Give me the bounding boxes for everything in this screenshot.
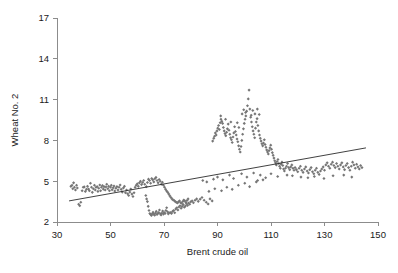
data-point <box>272 157 275 160</box>
data-point <box>343 168 346 171</box>
data-point <box>257 129 260 132</box>
data-point <box>313 175 316 178</box>
data-point <box>79 201 82 204</box>
data-point <box>264 176 267 179</box>
data-point <box>261 178 264 181</box>
data-point <box>228 174 231 177</box>
data-point <box>238 148 241 151</box>
y-tick-group: 258111417 <box>38 12 57 227</box>
x-axis-title: Brent crude oil <box>187 246 248 257</box>
data-point <box>228 133 231 136</box>
data-point <box>158 208 161 211</box>
data-point <box>74 188 77 191</box>
data-point <box>252 171 255 174</box>
data-point <box>237 144 240 147</box>
data-point <box>250 120 253 123</box>
data-point <box>240 172 243 175</box>
data-point <box>224 118 227 121</box>
data-point <box>247 97 250 100</box>
data-point <box>248 89 251 92</box>
data-point <box>207 190 210 193</box>
data-point <box>197 200 200 203</box>
data-point <box>350 165 353 168</box>
x-tick-group: 30507090110130150 <box>52 222 386 240</box>
data-point <box>146 200 149 203</box>
data-point <box>98 183 101 186</box>
data-point <box>253 112 256 115</box>
data-point <box>241 133 244 136</box>
data-point <box>237 184 240 187</box>
data-point <box>258 133 261 136</box>
data-point <box>239 150 242 153</box>
data-point <box>251 125 254 128</box>
data-point <box>244 118 247 121</box>
data-point <box>260 140 263 143</box>
data-point <box>201 179 204 182</box>
data-point <box>149 182 152 185</box>
data-point <box>205 180 208 183</box>
data-point <box>116 188 119 191</box>
y-tick-label: 8 <box>44 135 49 146</box>
data-point <box>231 141 234 144</box>
data-point <box>231 188 234 191</box>
data-point <box>269 144 272 147</box>
data-point <box>338 167 341 170</box>
y-tick-label: 17 <box>38 12 49 23</box>
data-point <box>241 112 244 115</box>
data-point <box>276 175 279 178</box>
data-point <box>272 154 275 157</box>
x-tick-label: 110 <box>263 229 278 240</box>
data-point <box>220 189 223 192</box>
data-point <box>254 127 257 130</box>
data-point <box>221 178 224 181</box>
data-point <box>245 176 248 179</box>
data-point <box>232 177 235 180</box>
x-tick-label: 90 <box>212 229 223 240</box>
data-point <box>350 176 353 179</box>
data-point <box>342 174 345 177</box>
data-point <box>286 174 289 177</box>
data-point <box>256 124 259 127</box>
data-point <box>236 140 239 143</box>
x-tick-label: 30 <box>52 229 63 240</box>
y-tick-label: 14 <box>38 53 49 64</box>
data-point <box>243 122 246 125</box>
data-point <box>323 169 326 172</box>
y-axis-title: Wheat No. 2 <box>9 94 20 147</box>
trend-line <box>69 148 366 201</box>
data-point <box>203 199 206 202</box>
data-point <box>89 182 92 185</box>
data-point <box>248 108 251 111</box>
data-point <box>86 185 89 188</box>
data-point <box>351 161 354 164</box>
data-point <box>235 137 238 140</box>
data-point <box>219 114 222 117</box>
data-point <box>216 176 219 179</box>
data-point <box>113 189 116 192</box>
data-point <box>165 206 168 209</box>
data-point <box>211 199 214 202</box>
data-point <box>263 138 266 141</box>
data-point <box>212 178 215 181</box>
data-point <box>352 163 355 166</box>
data-point <box>259 137 262 140</box>
data-point <box>244 114 247 117</box>
data-point <box>246 104 249 107</box>
data-point <box>264 146 267 149</box>
data-point <box>144 194 147 197</box>
chart-canvas: 258111417 30507090110130150 Brent crude … <box>0 0 398 273</box>
data-point <box>128 191 131 194</box>
data-point <box>146 181 149 184</box>
data-point <box>96 190 99 193</box>
data-point <box>253 136 256 139</box>
data-point <box>72 181 75 184</box>
data-point <box>217 124 220 127</box>
data-point <box>251 109 254 112</box>
data-point <box>242 108 245 111</box>
data-point <box>229 120 232 123</box>
x-tick-label: 130 <box>317 229 333 240</box>
data-point <box>99 189 102 192</box>
data-point <box>225 186 228 189</box>
data-point <box>256 117 259 120</box>
data-point <box>222 126 225 129</box>
